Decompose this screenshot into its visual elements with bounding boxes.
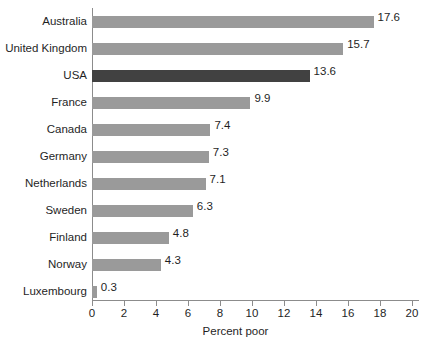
- bar-value-label: 17.6: [378, 11, 400, 23]
- bar-value-label: 0.3: [101, 281, 117, 293]
- x-tick-label: 6: [185, 307, 191, 320]
- x-tick-label: 16: [342, 307, 355, 320]
- bar-value-label: 6.3: [197, 200, 213, 212]
- x-tick-label: 2: [121, 307, 127, 320]
- category-label-australia: Australia: [0, 8, 87, 35]
- bar-germany: [92, 151, 209, 163]
- bar-group: 17.615.713.69.97.47.37.16.34.84.30.3: [92, 8, 412, 300]
- bar-row: 7.1: [92, 170, 412, 197]
- bar-usa: [92, 70, 310, 82]
- bar-value-label: 4.8: [173, 227, 189, 239]
- x-tick: [348, 301, 349, 306]
- x-tick: [380, 301, 381, 306]
- x-tick: [412, 301, 413, 306]
- x-tick: [316, 301, 317, 306]
- bar-value-label: 15.7: [347, 38, 369, 50]
- bar-luxembourg: [92, 286, 97, 298]
- bar-row: 15.7: [92, 35, 412, 62]
- bar-row: 7.4: [92, 116, 412, 143]
- x-tick: [156, 301, 157, 306]
- x-tick: [284, 301, 285, 306]
- bar-sweden: [92, 205, 193, 217]
- x-tick-label: 20: [406, 307, 419, 320]
- category-label-canada: Canada: [0, 116, 87, 143]
- bar-norway: [92, 259, 161, 271]
- x-tick-label: 18: [374, 307, 387, 320]
- x-tick: [92, 301, 93, 306]
- bar-value-label: 7.1: [210, 173, 226, 185]
- bar-united-kingdom: [92, 43, 343, 55]
- category-label-united-kingdom: United Kingdom: [0, 35, 87, 62]
- x-axis-title: Percent poor: [0, 325, 447, 337]
- x-tick-label: 10: [246, 307, 259, 320]
- category-label-text: Finland: [49, 231, 87, 244]
- category-label-luxembourg: Luxembourg: [0, 278, 87, 305]
- category-label-text: Norway: [48, 258, 87, 271]
- x-tick: [220, 301, 221, 306]
- x-tick-label: 4: [153, 307, 159, 320]
- category-label-text: United Kingdom: [5, 42, 87, 55]
- bar-value-label: 7.4: [214, 119, 230, 131]
- bar-value-label: 9.9: [254, 92, 270, 104]
- x-axis-title-text: Percent poor: [203, 325, 269, 337]
- bar-row: 7.3: [92, 143, 412, 170]
- category-label-text: Germany: [40, 150, 87, 163]
- category-label-text: Australia: [42, 15, 87, 28]
- category-label-netherlands: Netherlands: [0, 170, 87, 197]
- category-label-germany: Germany: [0, 143, 87, 170]
- category-label-sweden: Sweden: [0, 197, 87, 224]
- category-label-text: USA: [63, 69, 87, 82]
- category-label-finland: Finland: [0, 224, 87, 251]
- x-tick: [252, 301, 253, 306]
- category-label-text: Sweden: [45, 204, 87, 217]
- bar-value-label: 7.3: [213, 146, 229, 158]
- bar-row: 6.3: [92, 197, 412, 224]
- bar-finland: [92, 232, 169, 244]
- bar-netherlands: [92, 178, 206, 190]
- x-tick: [124, 301, 125, 306]
- category-label-text: Netherlands: [25, 177, 87, 190]
- bar-chart: AustraliaUnited KingdomUSAFranceCanadaGe…: [0, 0, 447, 355]
- x-tick: [188, 301, 189, 306]
- x-tick-label: 8: [217, 307, 223, 320]
- bar-australia: [92, 16, 374, 28]
- bar-row: 13.6: [92, 62, 412, 89]
- category-label-text: Canada: [47, 123, 87, 136]
- bar-value-label: 13.6: [314, 65, 336, 77]
- x-tick-label: 14: [310, 307, 323, 320]
- x-tick-label: 12: [278, 307, 291, 320]
- bar-france: [92, 97, 250, 109]
- category-label-france: France: [0, 89, 87, 116]
- bar-value-label: 4.3: [165, 254, 181, 266]
- bar-row: 9.9: [92, 89, 412, 116]
- x-tick-label: 0: [89, 307, 95, 320]
- category-label-usa: USA: [0, 62, 87, 89]
- category-label-text: Luxembourg: [23, 285, 87, 298]
- bar-row: 17.6: [92, 8, 412, 35]
- category-label-text: France: [51, 96, 87, 109]
- category-label-norway: Norway: [0, 251, 87, 278]
- bar-row: 4.3: [92, 251, 412, 278]
- bar-canada: [92, 124, 210, 136]
- bar-row: 4.8: [92, 224, 412, 251]
